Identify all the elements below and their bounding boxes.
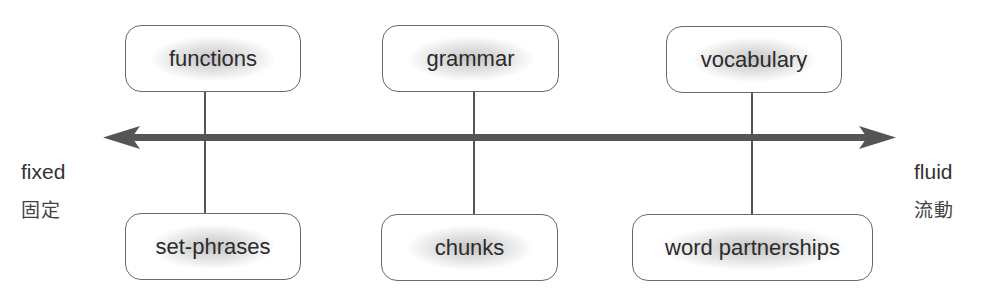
node-set-phrases: set-phrases bbox=[125, 213, 301, 280]
node-vocabulary: vocabulary bbox=[666, 26, 842, 93]
node-functions: functions bbox=[125, 25, 301, 92]
fixed-fluid-continuum-diagram: functions grammar vocabulary set-phrases… bbox=[0, 0, 986, 306]
node-label: vocabulary bbox=[701, 47, 807, 73]
axis-right-label: fluid bbox=[914, 161, 953, 182]
node-label: chunks bbox=[435, 235, 505, 261]
axis-left-label-cjk: 固定 bbox=[21, 201, 61, 220]
node-word-partnerships: word partnerships bbox=[632, 214, 873, 281]
axis-left-label: fixed bbox=[21, 161, 65, 182]
node-label: set-phrases bbox=[156, 234, 271, 260]
node-grammar: grammar bbox=[382, 25, 559, 92]
node-label: word partnerships bbox=[665, 235, 840, 261]
node-label: functions bbox=[169, 46, 257, 72]
node-chunks: chunks bbox=[381, 214, 558, 281]
node-label: grammar bbox=[426, 46, 514, 72]
axis-right-label-cjk: 流動 bbox=[914, 201, 954, 220]
